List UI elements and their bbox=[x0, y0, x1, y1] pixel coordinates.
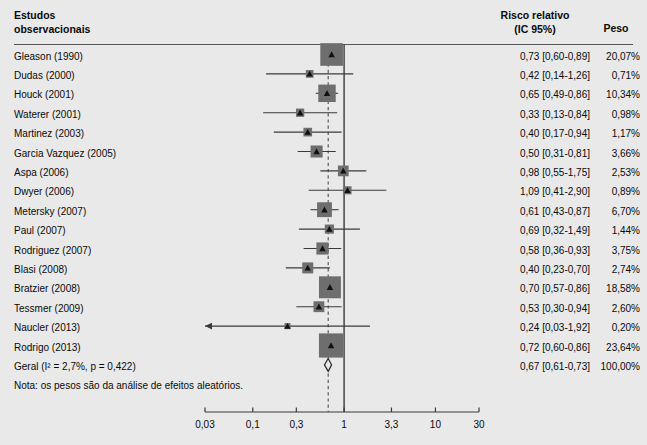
forest-row-marker bbox=[266, 70, 353, 78]
study-weight-value: 0,20% bbox=[592, 322, 640, 334]
study-row-label: Paul (2007) bbox=[14, 225, 66, 237]
effect-estimate-marker bbox=[284, 323, 290, 329]
x-axis-tick-label: 0,03 bbox=[195, 419, 214, 430]
study-weight-value: 18,58% bbox=[592, 283, 640, 295]
forest-plot-graphic bbox=[0, 0, 647, 445]
effect-estimate-marker bbox=[316, 242, 328, 254]
forest-row-marker bbox=[263, 109, 337, 117]
study-weight-value: 10,34% bbox=[592, 89, 640, 101]
point-estimate-triangle bbox=[344, 187, 350, 193]
study-risk-ratio-value: 0,61 [0,43-0,87] bbox=[480, 206, 590, 218]
column-header-risk-ratio-line2: (IC 95%) bbox=[480, 22, 590, 36]
pooled-row-label: Geral (I² = 2,7%, p = 0,422) bbox=[14, 361, 136, 373]
forest-row-marker bbox=[319, 276, 341, 298]
forest-row-marker bbox=[286, 262, 330, 273]
study-weight-value: 0,71% bbox=[592, 70, 640, 82]
study-weight-value: 1,44% bbox=[592, 225, 640, 237]
point-estimate-triangle bbox=[319, 245, 325, 251]
forest-row-marker bbox=[299, 225, 360, 234]
study-row-label: Dwyer (2006) bbox=[14, 186, 74, 198]
point-estimate-triangle bbox=[284, 323, 290, 329]
column-header-risk-ratio-line1: Risco relativo bbox=[480, 8, 590, 22]
effect-estimate-marker bbox=[303, 128, 312, 137]
effect-estimate-marker bbox=[343, 186, 351, 194]
point-estimate-triangle bbox=[328, 51, 334, 57]
effect-estimate-marker bbox=[318, 85, 335, 102]
study-risk-ratio-value: 0,72 [0,60-0,86] bbox=[480, 342, 590, 354]
study-weight-value: 6,70% bbox=[592, 206, 640, 218]
study-risk-ratio-value: 0,70 [0,57-0,86] bbox=[480, 283, 590, 295]
column-header-studies-line1: Estudos bbox=[14, 9, 55, 21]
study-row-label: Rodriguez (2007) bbox=[14, 245, 91, 257]
effect-estimate-marker bbox=[317, 202, 332, 217]
forest-plot-figure: Estudos observacionais Risco relativo (I… bbox=[0, 0, 647, 445]
study-risk-ratio-value: 0,65 [0,49-0,86] bbox=[480, 89, 590, 101]
study-risk-ratio-value: 0,42 [0,14-1,26] bbox=[480, 70, 590, 82]
x-axis-tick-label: 3,3 bbox=[384, 419, 398, 430]
forest-row-marker bbox=[316, 85, 338, 102]
effect-estimate-marker bbox=[319, 333, 343, 357]
x-axis-tick-label: 10 bbox=[430, 419, 441, 430]
study-row-label: Tessmer (2009) bbox=[14, 303, 83, 315]
study-weight-value: 0,89% bbox=[592, 186, 640, 198]
study-risk-ratio-value: 0,40 [0,23-0,70] bbox=[480, 264, 590, 276]
footnote: Nota: os pesos são da análise de efeitos… bbox=[14, 380, 243, 391]
forest-row-marker bbox=[298, 145, 336, 157]
column-header-weight: Peso bbox=[592, 22, 640, 34]
forest-row-marker bbox=[320, 43, 343, 66]
point-estimate-triangle bbox=[327, 284, 333, 290]
point-estimate-triangle bbox=[313, 148, 319, 154]
effect-estimate-marker bbox=[338, 166, 349, 177]
study-risk-ratio-value: 0,40 [0,17-0,94] bbox=[480, 128, 590, 140]
forest-row-marker bbox=[304, 242, 342, 254]
point-estimate-triangle bbox=[306, 71, 312, 77]
pooled-effect-diamond bbox=[324, 358, 331, 371]
effect-estimate-marker bbox=[313, 301, 324, 312]
study-risk-ratio-value: 0,53 [0,30-0,94] bbox=[480, 303, 590, 315]
column-header-risk-ratio: Risco relativo (IC 95%) bbox=[480, 8, 590, 36]
point-estimate-triangle bbox=[305, 129, 311, 135]
study-weight-value: 2,74% bbox=[592, 264, 640, 276]
forest-row-marker bbox=[205, 323, 370, 330]
study-weight-value: 3,66% bbox=[592, 148, 640, 160]
study-risk-ratio-value: 0,69 [0,32-1,49] bbox=[480, 225, 590, 237]
effect-estimate-marker bbox=[306, 70, 314, 78]
study-row-label: Waterer (2001) bbox=[14, 109, 81, 121]
effect-estimate-marker bbox=[311, 145, 323, 157]
point-estimate-triangle bbox=[305, 265, 311, 271]
point-estimate-triangle bbox=[326, 226, 332, 232]
study-row-label: Rodrigo (2013) bbox=[14, 342, 81, 354]
point-estimate-triangle bbox=[316, 304, 322, 310]
study-risk-ratio-value: 0,33 [0,13-0,84] bbox=[480, 109, 590, 121]
forest-row-marker bbox=[274, 128, 342, 137]
pooled-risk-ratio-value: 0,67 [0,61-0,73] bbox=[480, 361, 590, 373]
study-row-label: Houck (2001) bbox=[14, 89, 74, 101]
point-estimate-triangle bbox=[340, 168, 346, 174]
study-weight-value: 2,53% bbox=[592, 167, 640, 179]
study-row-label: Aspa (2006) bbox=[14, 167, 68, 179]
forest-row-marker bbox=[311, 202, 339, 217]
effect-estimate-marker bbox=[296, 109, 304, 117]
study-risk-ratio-value: 0,98 [0,55-1,75] bbox=[480, 167, 590, 179]
column-header-studies: Estudos observacionais bbox=[14, 8, 90, 36]
study-weight-value: 3,75% bbox=[592, 245, 640, 257]
study-weight-value: 1,17% bbox=[592, 128, 640, 140]
pooled-weight-value: 100,00% bbox=[592, 361, 640, 373]
study-row-label: Gleason (1990) bbox=[14, 51, 83, 63]
forest-row-marker bbox=[320, 166, 366, 177]
x-axis-tick-label: 30 bbox=[473, 419, 484, 430]
effect-estimate-marker bbox=[320, 43, 343, 66]
effect-estimate-marker bbox=[319, 276, 341, 298]
header-divider bbox=[14, 44, 633, 45]
forest-row-marker bbox=[319, 333, 343, 357]
study-row-label: Martinez (2003) bbox=[14, 128, 84, 140]
study-weight-value: 23,64% bbox=[592, 342, 640, 354]
point-estimate-triangle bbox=[321, 207, 327, 213]
effect-estimate-marker bbox=[325, 225, 334, 234]
study-row-label: Bratzier (2008) bbox=[14, 283, 80, 295]
study-risk-ratio-value: 0,24 [0,03-1,92] bbox=[480, 322, 590, 334]
forest-row-marker bbox=[296, 301, 341, 312]
study-risk-ratio-value: 0,58 [0,36-0,93] bbox=[480, 245, 590, 257]
point-estimate-triangle bbox=[328, 342, 334, 348]
study-risk-ratio-value: 1,09 [0,41-2,90] bbox=[480, 186, 590, 198]
